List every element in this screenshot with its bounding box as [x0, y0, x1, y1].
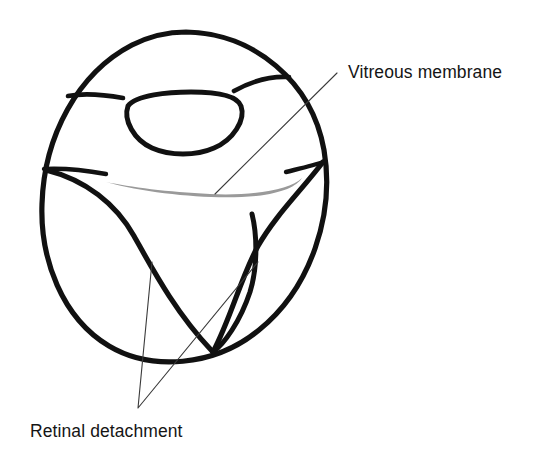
label-vitreous-membrane: Vitreous membrane	[348, 62, 502, 82]
label-retinal-detachment: Retinal detachment	[30, 421, 183, 441]
retinal-detachment-diagram: Vitreous membrane Retinal detachment	[0, 0, 536, 457]
